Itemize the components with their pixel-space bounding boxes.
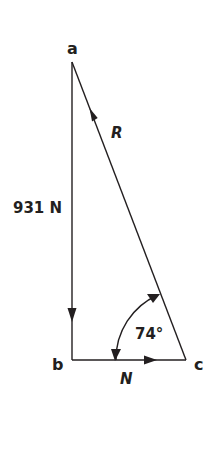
force-triangle-diagram: a b c 931 N R N 74° [0, 0, 213, 466]
angle-label: 74° [135, 325, 163, 343]
arc-arrowhead-top-icon [147, 294, 160, 303]
vector-label-r: R [111, 124, 123, 142]
vector-label-n: N [120, 370, 133, 388]
vertex-label-a: a [67, 39, 78, 58]
vertex-label-c: c [194, 355, 203, 374]
vector-ca-r [72, 62, 186, 360]
arrow-up-left-icon [90, 108, 98, 122]
arrow-down-icon [68, 308, 77, 322]
vertex-label-b: b [52, 355, 63, 374]
arrow-right-icon [144, 356, 157, 365]
weight-label: 931 N [13, 199, 62, 217]
